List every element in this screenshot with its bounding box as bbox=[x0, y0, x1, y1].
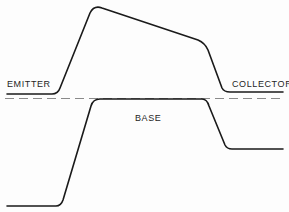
transistor-band-diagram: EMITTER COLLECTOR BASE bbox=[0, 0, 289, 212]
emitter-label: EMITTER bbox=[7, 80, 51, 89]
base-label: BASE bbox=[135, 114, 161, 123]
diagram-graphic bbox=[0, 0, 289, 212]
collector-label: COLLECTOR bbox=[232, 80, 289, 89]
